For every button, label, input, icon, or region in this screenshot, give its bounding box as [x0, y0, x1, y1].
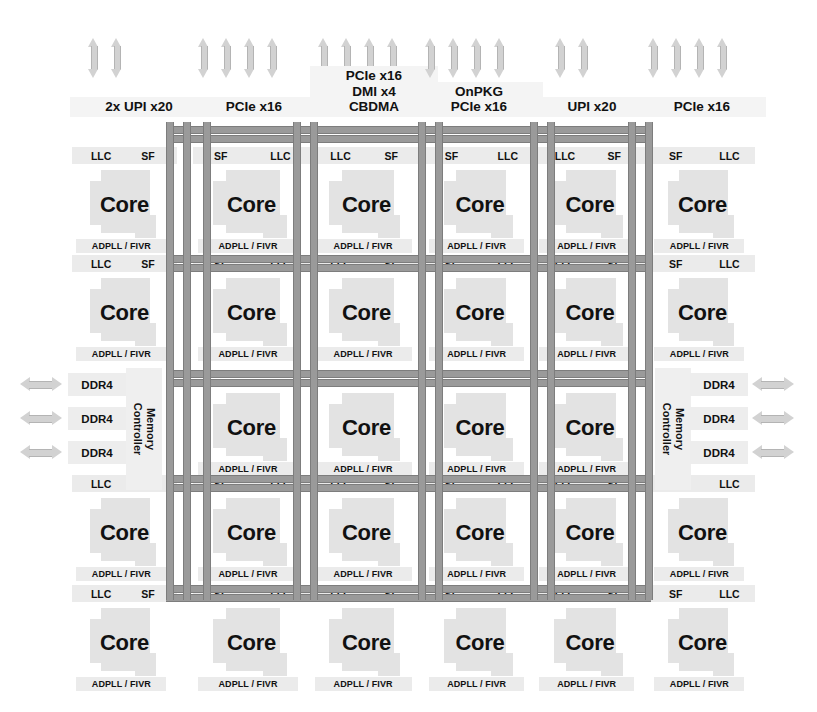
tile-block-shape	[135, 323, 156, 346]
mesh-horizontal-wire	[166, 255, 651, 263]
core-tile: LLCSFCoreADPLL / FIVR	[310, 590, 423, 695]
core-label: Core	[650, 630, 755, 656]
bidirectional-arrow-icon	[425, 38, 436, 78]
llc-sf-bar: LLCSF	[72, 255, 177, 272]
core-tile: LLCSFCoreADPLL / FIVR	[72, 480, 177, 585]
core-label: Core	[310, 520, 423, 546]
llc-label: LLC	[270, 150, 290, 162]
bidirectional-arrow-icon	[694, 38, 705, 78]
adpll-fivr-bar: ADPLL / FIVR	[198, 347, 299, 361]
adpll-fivr-bar: ADPLL / FIVR	[654, 567, 744, 581]
io-arrow-group	[198, 38, 290, 78]
core-label: Core	[310, 192, 423, 218]
memory-controller-label: Memory Controller	[660, 403, 686, 456]
tile-block-shape	[378, 438, 401, 461]
ddr4-channel: DDR4	[68, 441, 126, 464]
adpll-fivr-bar: ADPLL / FIVR	[315, 462, 412, 476]
tile-block-shape	[263, 323, 286, 346]
core-tile: SFLLCCoreADPLL / FIVR	[425, 590, 535, 695]
adpll-fivr-bar: ADPLL / FIVR	[76, 567, 166, 581]
tile-block-shape	[378, 543, 401, 566]
llc-sf-bar: LLCSF	[310, 147, 423, 164]
mesh-vertical-wire	[310, 122, 318, 600]
adpll-fivr-bar: ADPLL / FIVR	[429, 239, 524, 253]
adpll-fivr-bar: ADPLL / FIVR	[198, 677, 299, 691]
sf-label: SF	[141, 588, 154, 600]
ddr4-bidirectional-arrow-icon	[20, 445, 62, 460]
adpll-fivr-bar: ADPLL / FIVR	[315, 677, 412, 691]
adpll-fivr-bar: ADPLL / FIVR	[198, 239, 299, 253]
ddr4-channel: DDR4	[68, 407, 126, 430]
ddr4-bidirectional-arrow-icon	[752, 377, 794, 392]
core-tile: LLCSFCoreADPLL / FIVR	[310, 480, 423, 585]
adpll-fivr-bar: ADPLL / FIVR	[654, 239, 744, 253]
tile-block-shape	[263, 215, 286, 238]
die-body: LLCSFCoreADPLL / FIVRSFLLCCoreADPLL / FI…	[0, 130, 817, 690]
tile-block-shape	[263, 543, 286, 566]
io-arrow-group	[425, 38, 517, 78]
sf-label: SF	[445, 150, 458, 162]
sf-label: SF	[669, 588, 682, 600]
sf-label: SF	[669, 258, 682, 270]
bidirectional-arrow-icon	[648, 38, 659, 78]
mesh-horizontal-wire	[166, 264, 651, 272]
adpll-fivr-bar: ADPLL / FIVR	[429, 567, 524, 581]
memory-controller-block: Memory Controller	[126, 368, 162, 490]
adpll-fivr-bar: ADPLL / FIVR	[315, 239, 412, 253]
ddr4-channel: DDR4	[68, 373, 126, 396]
io-label: OnPKG PCIe x16	[415, 82, 543, 117]
llc-sf-bar: LLCSF	[72, 585, 177, 602]
bidirectional-arrow-icon	[244, 38, 255, 78]
tile-block-shape	[601, 543, 623, 566]
core-label: Core	[535, 630, 645, 656]
tile-block-shape	[713, 543, 734, 566]
ddr4-bidirectional-arrow-icon	[752, 445, 794, 460]
core-label: Core	[72, 520, 177, 546]
mesh-vertical-wire	[183, 122, 191, 600]
core-tile: SFLLCCoreADPLL / FIVR	[650, 480, 755, 585]
tile-block-shape	[491, 438, 513, 461]
mesh-horizontal-wire	[166, 370, 651, 378]
tile-block-shape	[378, 215, 401, 238]
tile-block-shape	[135, 543, 156, 566]
io-arrow-group	[555, 38, 601, 78]
adpll-fivr-bar: ADPLL / FIVR	[654, 677, 744, 691]
tile-block-shape	[135, 653, 156, 676]
core-tile: LLCSFCoreADPLL / FIVR	[72, 590, 177, 695]
bidirectional-arrow-icon	[471, 38, 482, 78]
sf-label: SF	[214, 150, 227, 162]
core-tile: SFLLCCoreADPLL / FIVR	[650, 260, 755, 365]
mesh-vertical-wire	[166, 122, 174, 600]
ddr4-channel: DDR4	[690, 407, 748, 430]
bidirectional-arrow-icon	[267, 38, 278, 78]
tile-block-shape	[713, 653, 734, 676]
mesh-vertical-wire	[530, 122, 538, 600]
memory-controller-label: Memory Controller	[131, 403, 157, 456]
llc-sf-bar: SFLLC	[650, 585, 755, 602]
llc-sf-bar: LLCSF	[72, 147, 177, 164]
core-tile: SFLLCCoreADPLL / FIVR	[193, 590, 310, 695]
core-tile: LLCSFCoreADPLL / FIVR	[72, 152, 177, 257]
memory-controller-block: Memory Controller	[655, 368, 691, 490]
adpll-fivr-bar: ADPLL / FIVR	[198, 462, 299, 476]
adpll-fivr-bar: ADPLL / FIVR	[76, 239, 166, 253]
llc-label: LLC	[719, 478, 739, 490]
core-tile: SFLLCCoreADPLL / FIVR	[650, 152, 755, 257]
adpll-fivr-bar: ADPLL / FIVR	[76, 347, 166, 361]
bidirectional-arrow-icon	[111, 38, 122, 78]
core-tile: LLCSFCoreADPLL / FIVR	[72, 260, 177, 365]
llc-label: LLC	[555, 150, 575, 162]
ddr4-channel: DDR4	[690, 441, 748, 464]
core-label: Core	[310, 415, 423, 441]
die-diagram: 2x UPI x20PCIe x16PCIe x16 DMI x4 CBDMAO…	[0, 0, 817, 712]
io-arrow-group	[88, 38, 134, 78]
bidirectional-arrow-icon	[671, 38, 682, 78]
mesh-horizontal-wire	[166, 594, 651, 602]
sf-label: SF	[385, 150, 398, 162]
core-label: Core	[72, 630, 177, 656]
core-label: Core	[650, 300, 755, 326]
llc-label: LLC	[330, 150, 350, 162]
io-label: PCIe x16	[190, 97, 318, 117]
bidirectional-arrow-icon	[717, 38, 728, 78]
core-label: Core	[72, 300, 177, 326]
